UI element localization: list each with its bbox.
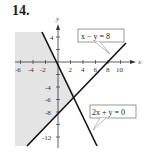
svg-text:2: 2 — [69, 66, 73, 74]
svg-text:8: 8 — [106, 66, 110, 74]
svg-text:2x + y = 0: 2x + y = 0 — [92, 108, 125, 117]
y-axis-label: y — [55, 15, 60, 23]
svg-text:10: 10 — [116, 66, 124, 74]
callout-2x-plus-y-eq-0: 2x + y = 0 — [90, 105, 136, 130]
svg-text:4: 4 — [81, 66, 85, 74]
callout-x-minus-y-eq-8: x − y = 8 — [78, 29, 124, 54]
svg-text:-2: -2 — [40, 66, 46, 74]
svg-text:-12: -12 — [42, 134, 52, 142]
svg-text:4: 4 — [50, 34, 54, 42]
svg-text:-6: -6 — [45, 96, 51, 104]
y-axis-arrow-icon — [56, 24, 60, 30]
svg-text:x − y = 8: x − y = 8 — [81, 32, 110, 41]
x-tick-labels: -6 -4 -2 2 4 6 8 10 — [15, 66, 124, 74]
inequality-graph: x y -6 -4 -2 2 4 6 8 10 4 -4 -6 — [0, 0, 145, 162]
x-axis-label: x — [137, 58, 142, 66]
svg-text:-4: -4 — [45, 84, 51, 92]
x-axis-arrow-icon — [130, 60, 136, 64]
svg-text:-8: -8 — [45, 109, 51, 117]
svg-text:-6: -6 — [15, 66, 21, 74]
svg-text:-4: -4 — [28, 66, 34, 74]
